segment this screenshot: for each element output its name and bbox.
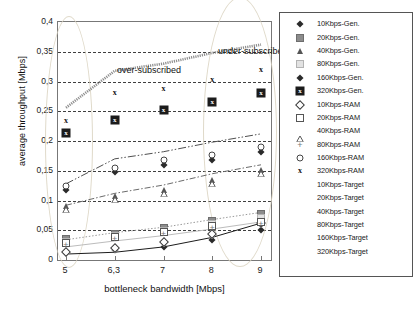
data-point: x	[257, 88, 266, 97]
x-tick-label: 7	[143, 266, 183, 275]
legend-symbol: +	[283, 138, 317, 151]
legend-symbol	[283, 111, 317, 124]
x-tick-mark	[66, 256, 67, 260]
legend-symbol: x	[283, 84, 317, 97]
data-point: x	[62, 129, 71, 138]
legend-label: 320Kbps-RAM	[317, 166, 364, 175]
y-tick-label: 0,3	[19, 77, 53, 86]
legend-symbol	[283, 205, 317, 218]
data-point: x	[258, 66, 265, 74]
legend-item: x320Kbps-RAM	[283, 164, 409, 177]
data-point: +	[111, 236, 118, 243]
chart-legend: 10Kbps-Gen.20Kbps-Gen.40Kbps-Gen.80Kbps-…	[279, 12, 413, 277]
y-axis-ticks: 0,40,350,30,250,20,150,10,050	[15, 21, 53, 261]
legend-label: 80Kbps-Target	[317, 220, 364, 229]
data-point	[63, 182, 70, 189]
legend-label: 40Kbps-Target	[317, 207, 364, 216]
legend-item: 20Kbps-Target	[283, 191, 409, 204]
legend-label: 320Kbps-Target	[317, 247, 368, 256]
plot-area: xxxxx+++++xxxxx over-subscribed under-su…	[57, 21, 272, 261]
legend-label: 10Kbps-RAM	[317, 100, 360, 109]
data-point: +	[209, 225, 216, 232]
data-point	[160, 157, 167, 164]
legend-label: 40Kbps-Gen.	[317, 46, 359, 55]
legend-item: 20Kbps-RAM	[283, 111, 409, 124]
y-tick-label: 0	[19, 255, 53, 264]
data-point	[209, 173, 216, 179]
legend-symbol	[283, 231, 317, 244]
data-point	[63, 199, 70, 205]
legend-item: 10Kbps-Gen.	[283, 17, 409, 30]
y-tick-label: 0,1	[19, 196, 53, 205]
x-axis-label: bottleneck bandwidth [Mbps]	[57, 283, 272, 294]
data-point: +	[160, 230, 167, 237]
figure-caption	[4, 301, 284, 311]
data-point	[258, 143, 265, 150]
legend-item: 10Kbps-Target	[283, 178, 409, 191]
legend-item: 40Kbps-Target	[283, 204, 409, 217]
legend-label: 160Kbps-RAM	[317, 153, 364, 162]
legend-symbol	[283, 245, 317, 258]
data-point: x	[208, 97, 217, 106]
y-tick-label: 0,25	[19, 106, 53, 115]
legend-item: 320Kbps-Target	[283, 245, 409, 258]
data-point: x	[111, 89, 118, 97]
x-tick-mark	[261, 256, 262, 260]
y-tick-label: 0,2	[19, 136, 53, 145]
legend-symbol	[283, 124, 317, 137]
data-point: x	[209, 76, 216, 84]
legend-label: 80Kbps-RAM	[317, 140, 360, 149]
legend-item: x320Kbps-Gen.	[283, 84, 409, 97]
x-tick-label: 9	[240, 266, 280, 275]
legend-label: 320Kbps-Gen.	[317, 86, 363, 95]
legend-symbol	[283, 98, 317, 111]
legend-symbol	[283, 57, 317, 70]
x-tick-label: 5	[45, 266, 85, 275]
legend-label: 20Kbps-Gen.	[317, 33, 359, 42]
legend-label: 80Kbps-Gen.	[317, 59, 359, 68]
legend-symbol	[283, 71, 317, 84]
annotation-over-subscribed: over-subscribed	[117, 65, 181, 75]
data-point: x	[63, 117, 70, 125]
legend-symbol: x	[283, 164, 317, 177]
data-point	[209, 152, 216, 159]
legend-item: 20Kbps-Gen.	[283, 30, 409, 43]
data-point: x	[110, 115, 119, 124]
legend-label: 20Kbps-RAM	[317, 113, 360, 122]
legend-symbol	[283, 17, 317, 30]
data-point	[111, 189, 118, 195]
data-point: x	[160, 85, 167, 93]
annotation-under-subscribed: under-subscribed	[218, 46, 288, 56]
x-axis-ticks: 56,3789	[57, 266, 272, 280]
data-point: +	[258, 220, 265, 227]
x-tick-mark	[212, 256, 213, 260]
legend-item: 40Kbps-Gen.	[283, 44, 409, 57]
y-tick-label: 0,35	[19, 47, 53, 56]
legend-symbol	[283, 151, 317, 164]
legend-symbol	[283, 178, 317, 191]
legend-label: 160Kbps-Target	[317, 233, 368, 242]
chart-figure: average throughput [Mbps] 0,40,350,30,25…	[0, 0, 419, 311]
legend-label: 20Kbps-Target	[317, 193, 364, 202]
legend-item: 160Kbps-RAM	[283, 151, 409, 164]
x-tick-mark	[164, 256, 165, 260]
legend-item: 40Kbps-RAM	[283, 124, 409, 137]
x-tick-label: 8	[191, 266, 231, 275]
data-point: +	[63, 241, 70, 248]
x-tick-mark	[115, 256, 116, 260]
legend-item: 80Kbps-Target	[283, 218, 409, 231]
x-tick-label: 6,3	[94, 266, 134, 275]
legend-item: 160Kbps-Gen.	[283, 71, 409, 84]
legend-symbol	[283, 44, 317, 57]
legend-symbol	[283, 191, 317, 204]
legend-symbol	[283, 31, 317, 44]
data-point	[258, 163, 265, 169]
y-tick-label: 0,15	[19, 166, 53, 175]
legend-label: 40Kbps-RAM	[317, 126, 360, 135]
legend-item: 10Kbps-RAM	[283, 97, 409, 110]
legend-item: 160Kbps-Target	[283, 231, 409, 244]
legend-label: 10Kbps-Gen.	[317, 19, 359, 28]
y-tick-label: 0,4	[19, 17, 53, 26]
legend-label: 10Kbps-Target	[317, 180, 364, 189]
data-point	[111, 164, 118, 171]
